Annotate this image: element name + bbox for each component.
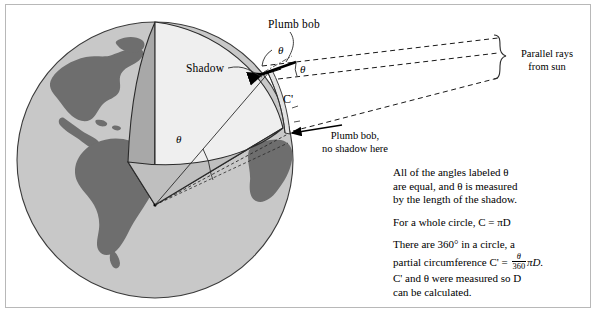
theta-symbol-earth-center: θ	[176, 133, 181, 145]
theta-over-360-fraction: θ360	[512, 252, 527, 272]
note-p4-line1: C' and θ were measured so D	[393, 272, 521, 284]
sun-ray-2	[278, 53, 498, 79]
plumb-bob-top-stick	[262, 62, 296, 74]
parallel-rays-label-line1: Parallel rays	[521, 48, 573, 59]
plumb-bob-bottom-label-line2: no shadow here	[322, 143, 388, 154]
note-paragraph-3: There are 360° in a circle, a partial ci…	[393, 238, 593, 299]
note-p3-line1: There are 360° in a circle, a	[393, 238, 515, 250]
note-paragraph-1: All of the angles labeled θ are equal, a…	[393, 166, 593, 207]
shadow-label: Shadow	[186, 62, 224, 74]
note-p3-formula-suffix: πD.	[527, 256, 543, 268]
fraction-numerator: θ	[512, 252, 527, 263]
explanatory-text-block: All of the angles labeled θ are equal, a…	[393, 166, 593, 308]
plumb-bob-top-label: Plumb bob	[268, 18, 320, 30]
theta-arc-ray-surface	[295, 63, 297, 76]
c-prime-label: C'	[283, 92, 293, 107]
note-paragraph-2: For a whole circle, C = πD	[393, 216, 593, 230]
figure-canvas: Plumb bob Shadow C' Parallel rays from s…	[0, 0, 601, 318]
theta-symbol-ray-surface: θ	[300, 63, 305, 75]
plumb-bob-bottom-label-line1: Plumb bob,	[331, 130, 379, 141]
note-p1-line1: All of the angles labeled θ	[393, 166, 509, 178]
parallel-rays-label: Parallel rays from sun	[505, 48, 589, 73]
note-p3-formula-prefix: partial circumference C' =	[393, 256, 511, 268]
note-p1-line3: by the length of the shadow.	[393, 193, 517, 205]
c-prime-bracket	[292, 106, 300, 122]
plumb-bob-top-leader	[286, 32, 293, 62]
fraction-denominator: 360	[512, 262, 527, 272]
note-p4-line2: can be calculated.	[393, 286, 471, 298]
plumb-bob-bottom-label: Plumb bob, no shadow here	[303, 130, 407, 155]
parallel-rays-label-line2: from sun	[528, 61, 566, 72]
parallel-sun-rays	[262, 38, 498, 131]
globe-graphic	[17, 22, 293, 298]
sun-ray-3	[293, 78, 498, 131]
theta-symbol-plumb-vertical: θ	[278, 44, 283, 56]
note-p1-line2: are equal, and θ is measured	[393, 180, 517, 192]
theta-arc-plumb-vertical	[262, 50, 272, 66]
sun-ray-1	[262, 38, 498, 66]
